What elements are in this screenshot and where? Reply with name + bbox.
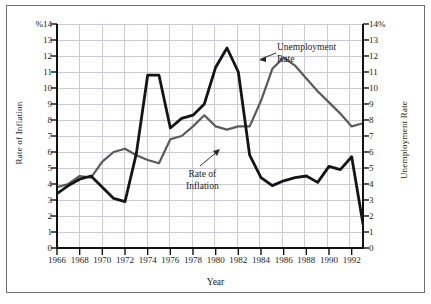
y-tick-label-right-9: 9 (369, 100, 403, 109)
y-tick-label-right-12: 12 (369, 52, 403, 61)
y-tick-label-right-0: 0 (369, 244, 403, 253)
y-tick-label-right-1: 1 (369, 228, 403, 237)
y-axis-title-left: Rate of Inflation (14, 78, 24, 188)
y-tick-label-left-14: %14 (14, 20, 52, 29)
inflation-rate-annotation: Rate of Inflation (186, 168, 219, 192)
chart-figure: %14131211109876543210 14%131211109876543… (0, 0, 431, 304)
y-tick-label-right-10: 10 (369, 84, 403, 93)
x-tick-label-1992: 1992 (335, 256, 369, 265)
unemployment-annotation-line1: Unemployment (277, 41, 336, 53)
y-tick-label-right-7: 7 (369, 132, 403, 141)
unemployment-rate-annotation: Unemployment Rate (277, 41, 336, 65)
y-tick-label-left-11: 11 (14, 68, 52, 77)
y-tick-label-right-8: 8 (369, 116, 403, 125)
unemployment-annotation-line2: Rate (277, 53, 336, 65)
y-tick-label-right-2: 2 (369, 212, 403, 221)
inflation-annotation-line2: Inflation (186, 180, 219, 192)
y-tick-label-left-1: 1 (14, 228, 52, 237)
x-axis-title: Year (0, 277, 431, 287)
y-tick-label-left-13: 13 (14, 36, 52, 45)
y-tick-label-right-14: 14% (369, 20, 403, 29)
y-tick-label-left-2: 2 (14, 212, 52, 221)
y-axis-title-right: Unemployment Rate (399, 85, 409, 195)
y-tick-label-right-4: 4 (369, 180, 403, 189)
y-tick-label-left-12: 12 (14, 52, 52, 61)
y-tick-label-left-3: 3 (14, 196, 52, 205)
inflation-annotation-line1: Rate of (186, 168, 219, 180)
y-tick-label-right-5: 5 (369, 164, 403, 173)
y-tick-label-right-3: 3 (369, 196, 403, 205)
y-tick-label-right-13: 13 (369, 36, 403, 45)
x-axis-tick-labels: 1966196819701972197419761978198019821984… (0, 256, 431, 270)
y-tick-label-right-6: 6 (369, 148, 403, 157)
y-tick-label-left-0: 0 (14, 244, 52, 253)
y-tick-label-right-11: 11 (369, 68, 403, 77)
